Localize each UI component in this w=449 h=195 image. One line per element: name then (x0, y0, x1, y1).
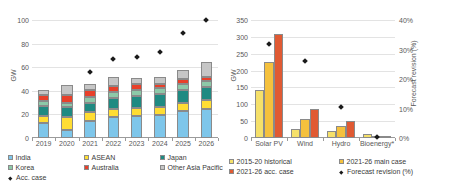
legend-label: Other Asia Pacific (168, 163, 223, 172)
forecast-revision-marker-wind (302, 58, 308, 64)
bar-segment-other-asia-pacific (131, 78, 143, 84)
bar-segment-korea (177, 84, 189, 90)
x-tick-label-7: 2026 (199, 140, 215, 148)
bar-solar-pv-2021-26-main-case[interactable] (264, 62, 273, 138)
legend-swatch-icon (229, 159, 234, 164)
legend-item-asean[interactable]: ASEAN (84, 153, 115, 162)
legend-item-india[interactable]: India (8, 153, 31, 162)
y2-tick-label: 40% (399, 17, 413, 24)
bar-segment-australia (131, 84, 143, 89)
bar-segment-india (84, 121, 96, 138)
legend-item-2021-26-main-case[interactable]: 2021-26 main case (339, 157, 406, 166)
x-tick-mark (172, 138, 173, 141)
y-tick-label: 100 (236, 101, 248, 108)
bar-hydro-2021-26-main-case[interactable] (336, 126, 345, 138)
legend-item-2015-20-historical[interactable]: 2015-20 historical (229, 157, 292, 166)
bar-segment-india (38, 123, 50, 138)
legend-swatch-icon (8, 155, 13, 160)
bar-segment-korea (201, 81, 213, 86)
bar-segment-japan (84, 103, 96, 112)
bar-segment-asean (201, 100, 213, 109)
bar-segment-korea (108, 92, 120, 98)
stacked-bar-2024[interactable] (154, 20, 166, 138)
legend-item-acc-case[interactable]: Acc. case (8, 173, 46, 182)
y-tick-label: 100 (17, 17, 29, 24)
stacked-bar-2026[interactable] (201, 20, 213, 138)
bar-segment-asean (154, 107, 166, 115)
bar-segment-other-asia-pacific (38, 90, 50, 95)
bar-segment-australia (84, 90, 96, 98)
y-tick-label: 60 (21, 64, 29, 71)
legend-swatch-icon (339, 159, 344, 164)
bar-wind-2021-26-main-case[interactable] (300, 119, 309, 138)
bar-solar-pv-2021-26-acc-case[interactable] (274, 34, 283, 138)
y2-tick-label: 10% (399, 105, 413, 112)
bar-segment-other-asia-pacific (154, 77, 166, 83)
legend-item-forecast-revision[interactable]: Forecast revision (%) (339, 167, 413, 176)
bar-segment-korea (38, 101, 50, 106)
legend-label: Korea (16, 163, 35, 172)
bar-hydro-2015-20-historical[interactable] (327, 131, 336, 138)
bar-segment-japan (201, 87, 213, 100)
legend-label: India (16, 153, 31, 162)
stacked-bar-2022[interactable] (108, 20, 120, 138)
legend-item-2021-26-acc-case[interactable]: 2021-26 acc. case (229, 167, 294, 176)
bar-segment-asean (84, 112, 96, 121)
legend-label: ASEAN (92, 153, 116, 162)
legend-item-japan[interactable]: Japan (160, 153, 187, 162)
legend-swatch-icon (229, 169, 234, 174)
y-tick-label: 250 (236, 50, 248, 57)
bar-segment-india (108, 117, 120, 138)
x-tick-label-2: 2021 (82, 140, 98, 148)
bar-segment-japan (108, 98, 120, 109)
stacked-bar-2023[interactable] (131, 20, 143, 138)
y-tick-label: 0 (25, 135, 29, 142)
bar-segment-other-asia-pacific (177, 70, 189, 79)
bar-hydro-2021-26-acc-case[interactable] (346, 121, 355, 138)
bar-segment-japan (131, 96, 143, 108)
x-tick-mark (148, 138, 149, 141)
bar-segment-korea (61, 103, 73, 108)
gridline (251, 54, 395, 55)
stacked-bar-2020[interactable] (61, 20, 73, 138)
y2-tick-label: 20% (399, 76, 413, 83)
bar-wind-2015-20-historical[interactable] (291, 129, 300, 138)
bar-bioenergy--2015-20-historical[interactable] (363, 134, 372, 138)
stacked-bar-2021[interactable] (84, 20, 96, 138)
x-tick-mark (251, 138, 252, 141)
legend-swatch-icon (84, 165, 89, 170)
bar-segment-asean (38, 116, 50, 124)
bar-segment-asean (177, 103, 189, 111)
gridline (32, 91, 218, 92)
bar-wind-2021-26-acc-case[interactable] (310, 109, 319, 138)
bar-bioenergy--2021-26-acc-case[interactable] (382, 136, 391, 138)
x-tick-label-3: Bioenergy* (360, 140, 394, 148)
legend-item-australia[interactable]: Australia (84, 163, 119, 172)
legend-swatch-icon (160, 155, 165, 160)
bar-segment-australia (108, 86, 120, 92)
right-chart-panel: GW Forecast revision (%) 050100150200250… (225, 0, 449, 195)
gridline (32, 67, 218, 68)
stacked-bar-2019[interactable] (38, 20, 50, 138)
bar-segment-australia (38, 95, 50, 101)
bar-segment-asean (108, 109, 120, 117)
legend-item-korea[interactable]: Korea (8, 163, 34, 172)
y-tick-label: 150 (236, 84, 248, 91)
x-tick-label-1: 2020 (59, 140, 75, 148)
x-tick-mark (32, 138, 33, 141)
x-tick-label-0: Solar PV (255, 140, 283, 148)
x-tick-mark (395, 138, 396, 141)
x-tick-label-0: 2019 (36, 140, 52, 148)
bar-segment-asean (131, 108, 143, 116)
x-tick-label-3: 2022 (106, 140, 122, 148)
y2-tick-label: 30% (399, 46, 413, 53)
x-tick-label-4: 2023 (129, 140, 145, 148)
stacked-bar-2025[interactable] (177, 20, 189, 138)
legend-item-other-asia-pacific[interactable]: Other Asia Pacific (160, 163, 223, 172)
diamond-marker-icon (8, 175, 14, 181)
bar-solar-pv-2015-20-historical[interactable] (255, 90, 264, 138)
bar-segment-india (61, 130, 73, 138)
y-tick-label: 50 (240, 118, 248, 125)
bar-segment-japan (177, 90, 189, 102)
bar-segment-other-asia-pacific (201, 62, 213, 76)
